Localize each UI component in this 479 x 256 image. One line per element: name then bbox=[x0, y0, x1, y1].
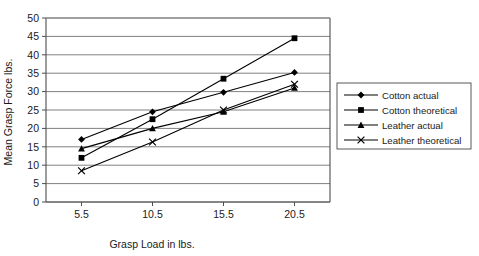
diamond-marker bbox=[291, 69, 298, 76]
chart-figure: Mean Grasp Force lbs. Grasp Load in lbs.… bbox=[0, 0, 479, 256]
x-axis-title: Grasp Load in lbs. bbox=[109, 238, 194, 250]
y-tick-label: 40 bbox=[27, 49, 39, 61]
square-marker bbox=[79, 155, 85, 161]
line-chart: Mean Grasp Force lbs. Grasp Load in lbs.… bbox=[0, 0, 479, 256]
series-line bbox=[82, 88, 295, 149]
square-marker bbox=[358, 107, 364, 113]
legend-label: Cotton theoretical bbox=[382, 105, 457, 116]
gridlines bbox=[46, 18, 330, 202]
y-tick-label: 10 bbox=[27, 159, 39, 171]
y-tick-label: 5 bbox=[33, 177, 39, 189]
series-layer bbox=[78, 35, 298, 174]
x-tick-label: 5.5 bbox=[74, 208, 89, 220]
diamond-marker bbox=[220, 89, 227, 96]
legend-label: Leather theoretical bbox=[382, 135, 461, 146]
diamond-marker bbox=[78, 136, 85, 143]
series-cotton-actual bbox=[78, 69, 298, 143]
y-axis-ticks: 05101520253035404550 bbox=[27, 12, 46, 208]
y-tick-label: 50 bbox=[27, 12, 39, 24]
square-marker bbox=[292, 35, 298, 41]
y-tick-label: 0 bbox=[33, 196, 39, 208]
y-tick-label: 20 bbox=[27, 122, 39, 134]
legend-label: Leather actual bbox=[382, 120, 443, 131]
legend-label: Cotton actual bbox=[382, 90, 439, 101]
y-tick-label: 30 bbox=[27, 85, 39, 97]
diamond-marker bbox=[149, 108, 156, 115]
y-tick-label: 35 bbox=[27, 67, 39, 79]
square-marker bbox=[221, 76, 227, 82]
y-tick-label: 25 bbox=[27, 104, 39, 116]
cross-marker bbox=[149, 139, 156, 146]
x-axis-ticks: 5.510.515.520.5 bbox=[74, 202, 305, 220]
x-tick-label: 20.5 bbox=[284, 208, 305, 220]
y-axis-title: Mean Grasp Force lbs. bbox=[2, 59, 14, 166]
y-tick-label: 15 bbox=[27, 141, 39, 153]
square-marker bbox=[150, 116, 156, 122]
cross-marker bbox=[78, 167, 85, 174]
x-tick-label: 15.5 bbox=[213, 208, 234, 220]
x-tick-label: 10.5 bbox=[142, 208, 163, 220]
y-tick-label: 45 bbox=[27, 30, 39, 42]
series-line bbox=[82, 72, 295, 139]
